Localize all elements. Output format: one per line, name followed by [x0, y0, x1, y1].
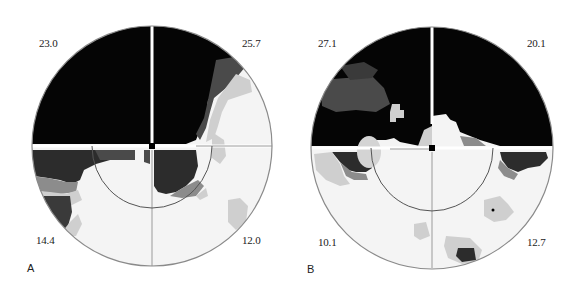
visual-field-plots: [0, 0, 575, 293]
visual-field-panel-b: [308, 20, 560, 269]
fixation-point-b: [429, 145, 435, 151]
fixation-point-a: [149, 143, 155, 149]
panel-b-lower-left-value: 10.1: [318, 236, 336, 248]
visual-field-figure: 23.0 25.7 14.4 12.0 A 27.1 20.1 10.1 12.…: [0, 0, 575, 293]
panel-a-lower-right-value: 12.0: [242, 234, 260, 246]
panel-b-upper-right-value: 20.1: [527, 37, 545, 49]
panel-b-upper-left-value: 27.1: [318, 37, 336, 49]
panel-b-label: B: [307, 263, 314, 275]
panel-b-lower-right-value: 12.7: [527, 236, 545, 248]
panel-a-label: A: [27, 262, 34, 274]
panel-a-upper-right-value: 25.7: [242, 37, 260, 49]
panel-a-upper-left-value: 23.0: [39, 37, 57, 49]
visual-field-panel-a: [30, 20, 272, 266]
panel-a-lower-left-value: 14.4: [36, 234, 54, 246]
